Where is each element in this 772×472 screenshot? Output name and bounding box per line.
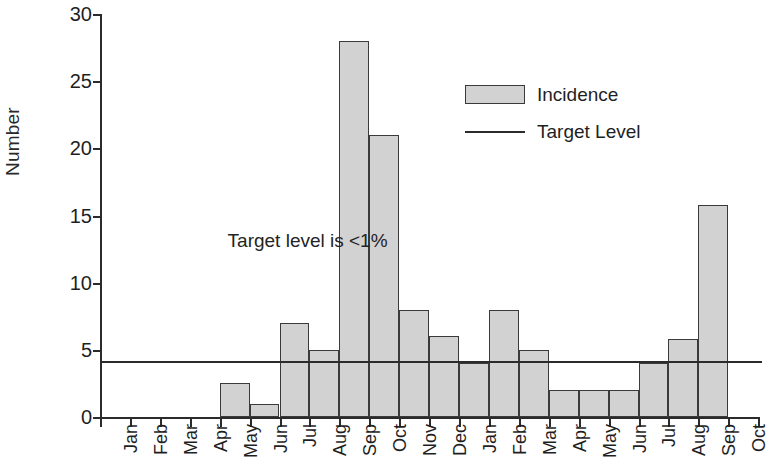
x-axis-tick-label: Jun [272, 424, 290, 470]
bar [609, 390, 639, 417]
x-axis-tick-label: Mar [541, 424, 559, 470]
x-axis-tick-label: Dec [451, 424, 469, 470]
plot-area [100, 14, 760, 418]
x-axis-tick-label: Oct [391, 424, 409, 470]
x-axis-tick-label: Nov [421, 424, 439, 470]
x-axis-tick-label: Aug [331, 424, 349, 470]
bar [698, 205, 728, 417]
x-axis-tick-label-group: JanFebMarAprMayJunJulAugSepOctNovDecJanF… [100, 424, 772, 472]
bar [459, 363, 489, 417]
bar [250, 404, 280, 417]
x-axis-tick-label: Feb [152, 424, 170, 470]
x-axis-tick-label: Jan [481, 424, 499, 470]
y-axis-title: Number [2, 36, 28, 176]
bar [220, 383, 250, 417]
x-axis-tick-label: Apr [571, 424, 589, 470]
incidence-bar-chart: Number 051015202530 Target level is <1% … [0, 0, 772, 472]
bar [489, 310, 519, 417]
x-axis-tick-label: May [242, 424, 260, 470]
x-axis-tick-label: Sep [720, 424, 738, 470]
chart-legend: Incidence Target Level [465, 78, 705, 152]
y-axis-tick-label: 20 [48, 138, 92, 158]
y-axis-tick-label: 5 [48, 340, 92, 360]
bar [399, 310, 429, 417]
legend-line-swatch-icon [465, 131, 525, 133]
bars-layer [100, 14, 760, 418]
y-axis-tick-label-group: 051015202530 [42, 0, 92, 430]
bar [369, 135, 399, 417]
bar [549, 390, 579, 417]
x-axis-tick-label: May [601, 424, 619, 470]
x-axis-tick-label: Aug [690, 424, 708, 470]
bar [280, 323, 310, 417]
y-axis-tick-label: 0 [48, 407, 92, 427]
legend-bar-swatch-icon [465, 85, 525, 104]
legend-item-target-level: Target Level [465, 115, 705, 152]
bar [579, 390, 609, 417]
legend-item-incidence: Incidence [465, 78, 705, 115]
target-level-line [100, 361, 762, 363]
bar [639, 363, 669, 417]
x-axis-tick-label: Oct [750, 424, 768, 470]
bar [429, 336, 459, 417]
target-level-annotation: Target level is <1% [228, 230, 388, 252]
x-axis-tick-label: Jun [631, 424, 649, 470]
x-axis-tick-label: Apr [212, 424, 230, 470]
x-axis-tick-label: Jan [122, 424, 140, 470]
y-axis-tick-label: 15 [48, 206, 92, 226]
legend-label-target-level: Target Level [537, 115, 641, 148]
x-axis-tick-label: Jul [301, 424, 319, 470]
bar [668, 339, 698, 417]
x-axis-tick-label: Feb [511, 424, 529, 470]
x-axis-tick-label: Sep [361, 424, 379, 470]
y-axis-tick-label: 30 [48, 4, 92, 24]
x-axis-tick-label: Jul [660, 424, 678, 470]
legend-label-incidence: Incidence [537, 78, 618, 111]
y-axis-tick-label: 25 [48, 71, 92, 91]
y-axis-tick-label: 10 [48, 273, 92, 293]
x-axis-tick-label: Mar [182, 424, 200, 470]
